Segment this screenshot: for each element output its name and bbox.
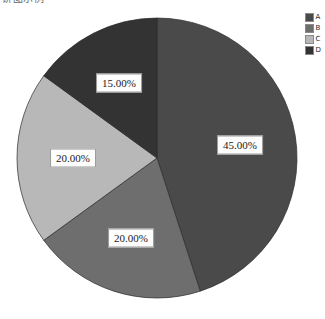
legend-swatch-icon xyxy=(305,46,314,55)
legend-label: D xyxy=(316,46,321,54)
legend-label: B xyxy=(316,24,321,32)
legend-item-c[interactable]: C xyxy=(305,34,321,44)
legend-item-a[interactable]: A xyxy=(305,12,321,22)
slice-label-c: 20.00% xyxy=(50,149,96,168)
legend-item-b[interactable]: B xyxy=(305,23,321,33)
legend-item-d[interactable]: D xyxy=(305,45,321,55)
legend-label: A xyxy=(316,13,321,21)
legend-swatch-icon xyxy=(305,24,314,33)
slice-label-b: 20.00% xyxy=(108,228,154,247)
legend-label: C xyxy=(316,35,321,43)
pie-svg xyxy=(0,0,325,319)
pie-chart: 饼图示例 45.00%20.00%20.00%15.00% ABCD xyxy=(0,0,325,319)
slice-label-d: 15.00% xyxy=(96,74,142,93)
slice-label-a: 45.00% xyxy=(217,135,263,154)
legend-swatch-icon xyxy=(305,13,314,22)
chart-legend: ABCD xyxy=(305,12,321,55)
legend-swatch-icon xyxy=(305,35,314,44)
